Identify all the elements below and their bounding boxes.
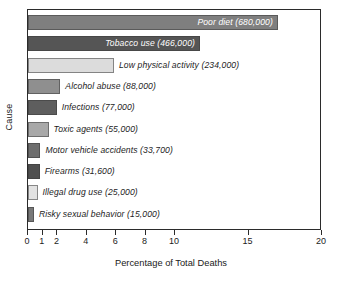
- x-axis-tick: [27, 230, 28, 235]
- bar-label: Alcohol abuse (88,000): [65, 79, 156, 94]
- bar-row: Motor vehicle accidents (33,700): [28, 143, 321, 158]
- bar: [28, 58, 114, 73]
- x-axis-tick-label: 20: [301, 236, 341, 246]
- bar: [28, 164, 40, 179]
- bar-row: Infections (77,000): [28, 100, 321, 115]
- bar-row: Low physical activity (234,000): [28, 58, 321, 73]
- x-axis-tick: [145, 230, 146, 235]
- bar-row: Illegal drug use (25,000): [28, 185, 321, 200]
- bar-label: Poor diet (680,000): [28, 15, 273, 30]
- bar-label: Motor vehicle accidents (33,700): [45, 143, 172, 158]
- bar-row: Firearms (31,600): [28, 164, 321, 179]
- bar-label: Illegal drug use (25,000): [43, 185, 138, 200]
- x-axis-tick: [56, 230, 57, 235]
- bar-label: Low physical activity (234,000): [119, 58, 239, 73]
- bar-row: Toxic agents (55,000): [28, 122, 321, 137]
- bar-row: Poor diet (680,000): [28, 15, 321, 30]
- bar-label: Risky sexual behavior (15,000): [39, 207, 160, 222]
- bar-label: Tobacco use (466,000): [28, 36, 195, 51]
- bar: [28, 207, 34, 222]
- bar-row: Alcohol abuse (88,000): [28, 79, 321, 94]
- y-axis-title: Cause: [4, 87, 14, 147]
- x-axis-tick-label: 10: [154, 236, 194, 246]
- bar-row: Risky sexual behavior (15,000): [28, 207, 321, 222]
- x-axis-tick: [174, 230, 175, 235]
- x-axis-tick-label: 15: [228, 236, 268, 246]
- bar-chart-figure: Cause Poor diet (680,000)Tobacco use (46…: [0, 0, 342, 281]
- x-axis-tick: [86, 230, 87, 235]
- plot-area: Poor diet (680,000)Tobacco use (466,000)…: [27, 9, 321, 230]
- bar: [28, 185, 38, 200]
- bar: [28, 100, 57, 115]
- x-axis-tick: [115, 230, 116, 235]
- x-axis-tick: [248, 230, 249, 235]
- bar-label: Toxic agents (55,000): [54, 122, 138, 137]
- bar: [28, 122, 49, 137]
- bar-row: Tobacco use (466,000): [28, 36, 321, 51]
- bar-label: Infections (77,000): [62, 100, 135, 115]
- bar-label: Firearms (31,600): [45, 164, 115, 179]
- x-axis-title: Percentage of Total Deaths: [0, 258, 342, 268]
- x-axis: 012468101520: [27, 230, 321, 254]
- bar: [28, 79, 60, 94]
- x-axis-tick: [42, 230, 43, 235]
- bar: [28, 143, 40, 158]
- x-axis-tick: [321, 230, 322, 235]
